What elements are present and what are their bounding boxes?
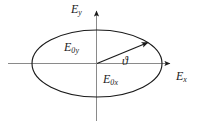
y-axis-label-subscript: y xyxy=(78,8,82,17)
angle-label: ϑ xyxy=(122,55,128,67)
x-axis-label-subscript: x xyxy=(183,75,187,84)
polarization-ellipse-figure: Ey Ex E0y E0x ϑ xyxy=(0,0,197,127)
y-amplitude-label: E0y xyxy=(64,41,79,53)
x-amplitude-label: E0x xyxy=(103,73,118,85)
y-axis-label: Ey xyxy=(71,3,82,15)
x-axis-label: Ex xyxy=(176,70,187,82)
y-amplitude-subscript: 0y xyxy=(71,46,79,55)
diagram-canvas xyxy=(0,0,197,127)
x-amplitude-subscript: 0x xyxy=(110,78,118,87)
